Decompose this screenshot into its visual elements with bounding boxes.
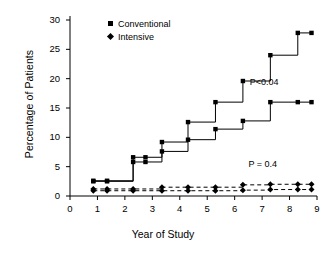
x-axis-tick-label: 2 (117, 203, 133, 214)
data-point-diamond (240, 187, 246, 193)
data-point-square (296, 31, 300, 35)
data-point-square (131, 160, 135, 164)
y-axis-title: Percentage of Patients (23, 50, 35, 158)
y-axis-tick-label: 30 (38, 14, 60, 25)
x-axis-tick-label: 7 (254, 203, 270, 214)
data-point-square (309, 100, 313, 104)
x-axis-tick-label: 9 (309, 203, 325, 214)
data-point-square (131, 155, 135, 159)
data-point-square (91, 179, 95, 183)
annotation-p-value-upper: P<0.04 (250, 77, 279, 87)
x-axis-tick-label: 0 (62, 203, 78, 214)
data-point-diamond (212, 188, 218, 194)
chart-legend: Conventional Intensive (105, 18, 171, 44)
square-marker-icon (105, 21, 116, 26)
data-point-square (143, 160, 147, 164)
y-axis-tick-label: 15 (38, 102, 60, 113)
legend-label-conventional: Conventional (118, 19, 171, 29)
data-point-square (143, 155, 147, 159)
y-axis-tick-label: 5 (38, 161, 60, 172)
legend-item-conventional: Conventional (105, 18, 171, 29)
kaplan-meier-step-chart: Percentage of Patients Year of Study Con… (0, 0, 326, 255)
y-axis-tick-label: 10 (38, 131, 60, 142)
data-point-square (160, 140, 164, 144)
legend-label-intensive: Intensive (118, 32, 154, 42)
x-axis-tick-label: 5 (199, 203, 215, 214)
data-point-square (213, 100, 217, 104)
legend-item-intensive: Intensive (105, 31, 171, 42)
y-axis-tick-label: 20 (38, 73, 60, 84)
data-point-square (160, 149, 164, 153)
data-point-diamond (309, 187, 315, 193)
x-axis-tick-label: 8 (282, 203, 298, 214)
series-line (93, 184, 311, 189)
data-point-diamond (185, 188, 191, 194)
data-point-square (268, 53, 272, 57)
diamond-marker-icon (105, 34, 116, 39)
data-point-square (268, 100, 272, 104)
data-point-square (213, 127, 217, 131)
data-point-diamond (295, 187, 301, 193)
x-axis-tick-label: 6 (227, 203, 243, 214)
data-point-square (296, 100, 300, 104)
data-point-square (309, 31, 313, 35)
annotation-p-value-lower: P = 0.4 (248, 159, 277, 169)
data-point-diamond (267, 187, 273, 193)
data-point-diamond (267, 181, 273, 187)
x-axis-tick-label: 1 (89, 203, 105, 214)
data-point-diamond (295, 181, 301, 187)
series-line (93, 33, 311, 181)
x-axis-tick-label: 3 (144, 203, 160, 214)
y-axis-tick-label: 25 (38, 43, 60, 54)
data-point-square (241, 79, 245, 83)
data-point-square (241, 119, 245, 123)
series-line (93, 190, 311, 191)
series-line (93, 102, 311, 181)
data-point-diamond (309, 181, 315, 187)
data-point-square (186, 120, 190, 124)
data-point-square (186, 137, 190, 141)
x-axis-title: Year of Study (0, 228, 326, 240)
y-axis-title-wrapper: Percentage of Patients (19, 24, 37, 184)
y-axis-tick-label: 0 (38, 190, 60, 201)
data-point-square (105, 179, 109, 183)
x-axis-tick-label: 4 (172, 203, 188, 214)
